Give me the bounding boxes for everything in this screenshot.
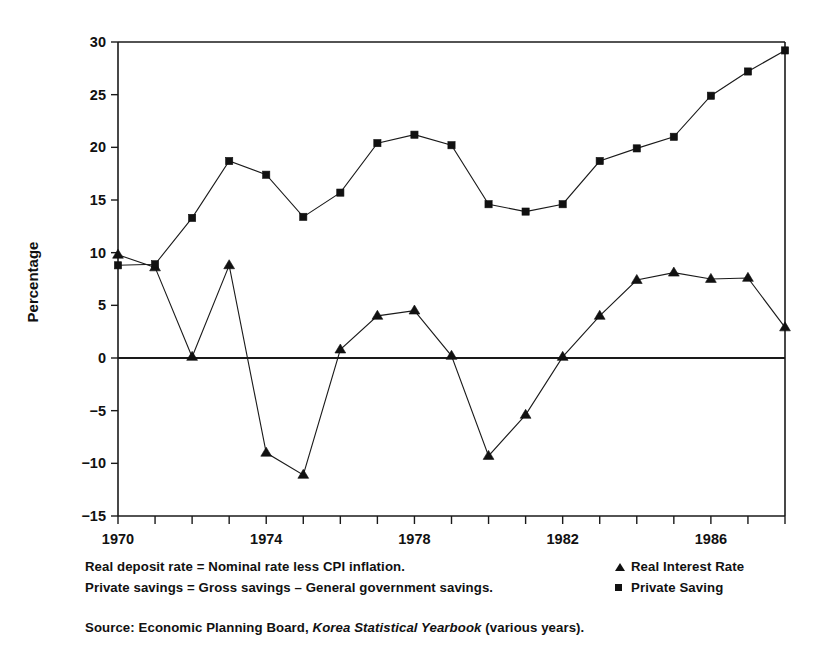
chart-legend: Real Interest Rate Private Saving bbox=[615, 556, 815, 598]
chart-notes: Real deposit rate = Nominal rate less CP… bbox=[85, 556, 555, 598]
y-tick-label-10: 10 bbox=[90, 245, 106, 261]
data-point bbox=[411, 131, 418, 138]
data-point bbox=[781, 47, 788, 54]
x-tick-label-1978: 1978 bbox=[398, 531, 430, 545]
triangle-marker-icon bbox=[615, 563, 631, 571]
data-point bbox=[151, 261, 158, 268]
square-marker-icon bbox=[615, 584, 631, 591]
data-point bbox=[743, 272, 754, 281]
line-chart: Percentage −15−10−5051015202530 19701974… bbox=[0, 0, 823, 545]
data-point bbox=[300, 213, 307, 220]
y-tick-label-20: 20 bbox=[90, 139, 106, 155]
legend-item-real-interest-rate: Real Interest Rate bbox=[615, 556, 815, 577]
data-point bbox=[448, 142, 455, 149]
y-axis-ticks: −15−10−5051015202530 bbox=[81, 34, 118, 524]
data-point bbox=[261, 447, 272, 456]
data-point bbox=[263, 171, 270, 178]
data-point bbox=[668, 267, 679, 276]
data-point bbox=[374, 140, 381, 147]
x-tick-label-1982: 1982 bbox=[547, 531, 579, 545]
data-point bbox=[744, 68, 751, 75]
x-tick-label-1974: 1974 bbox=[250, 531, 282, 545]
source-suffix: (various years). bbox=[485, 620, 584, 635]
y-tick-label--15: −15 bbox=[81, 508, 106, 524]
data-point bbox=[633, 145, 640, 152]
data-point bbox=[522, 208, 529, 215]
note-line-1: Real deposit rate = Nominal rate less CP… bbox=[85, 556, 555, 577]
y-tick-label-15: 15 bbox=[90, 192, 106, 208]
data-point bbox=[335, 344, 346, 353]
note-line-2: Private savings = Gross savings – Genera… bbox=[85, 577, 555, 598]
data-point bbox=[596, 157, 603, 164]
data-point bbox=[224, 260, 235, 269]
data-point bbox=[409, 305, 420, 314]
data-point bbox=[707, 92, 714, 99]
legend-label-real-interest-rate: Real Interest Rate bbox=[631, 559, 744, 574]
y-tick-label-30: 30 bbox=[90, 34, 106, 50]
x-axis-ticks: 19701974197819821986 bbox=[102, 516, 785, 545]
data-point bbox=[187, 351, 198, 360]
y-tick-label-5: 5 bbox=[98, 297, 106, 313]
data-point bbox=[337, 189, 344, 196]
source-title: Korea Statistical Yearbook bbox=[313, 620, 482, 635]
y-tick-label-25: 25 bbox=[90, 87, 106, 103]
data-point bbox=[298, 469, 309, 478]
data-point bbox=[520, 409, 531, 418]
series-line bbox=[118, 50, 785, 265]
y-axis-label: Percentage bbox=[24, 242, 41, 323]
x-tick-label-1970: 1970 bbox=[102, 531, 134, 545]
legend-label-private-saving: Private Saving bbox=[631, 580, 723, 595]
series-layer bbox=[113, 47, 791, 479]
series-private-saving bbox=[114, 47, 788, 269]
data-point bbox=[559, 201, 566, 208]
data-point bbox=[485, 201, 492, 208]
series-real-interest-rate bbox=[113, 249, 791, 478]
data-point bbox=[226, 157, 233, 164]
source-note: Source: Economic Planning Board, Korea S… bbox=[85, 620, 584, 635]
data-point bbox=[670, 133, 677, 140]
data-point bbox=[113, 249, 124, 258]
y-tick-label-0: 0 bbox=[98, 350, 106, 366]
series-line bbox=[118, 255, 785, 475]
x-tick-label-1986: 1986 bbox=[695, 531, 727, 545]
y-tick-label--10: −10 bbox=[81, 455, 106, 471]
legend-item-private-saving: Private Saving bbox=[615, 577, 815, 598]
source-prefix: Source: Economic Planning Board, bbox=[85, 620, 309, 635]
figure-container: Percentage −15−10−5051015202530 19701974… bbox=[0, 0, 823, 654]
y-tick-label--5: −5 bbox=[89, 403, 106, 419]
data-point bbox=[189, 214, 196, 221]
data-point bbox=[114, 262, 121, 269]
